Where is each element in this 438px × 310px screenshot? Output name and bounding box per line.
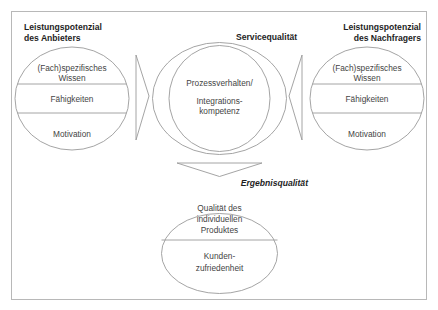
result-product-line1: Qualität des: [161, 203, 278, 214]
customer-heading-line1: Leistungspotenzial: [343, 22, 421, 33]
customer-knowledge-line2: Wissen: [310, 73, 424, 83]
result-satisfaction-line1: Kunden-: [161, 250, 278, 262]
customer-knowledge-line1: (Fach)spezifisches: [310, 63, 424, 73]
provider-motivation: Motivation: [15, 129, 129, 139]
result-satisfaction: Kunden- zufriedenheit: [161, 250, 278, 274]
right-arrow-shape: [136, 55, 149, 140]
service-line2: Integrations-: [169, 96, 270, 106]
customer-heading-line2: des Nachfragers: [343, 33, 421, 44]
down-arrow-shape: [177, 163, 262, 177]
provider-heading: Leistungspotenzial des Anbieters: [24, 22, 102, 43]
provider-skills: Fähigkeiten: [15, 94, 129, 104]
provider-heading-line2: des Anbieters: [24, 33, 102, 44]
result-heading: Ergebnisqualität: [241, 178, 308, 189]
customer-heading: Leistungspotenzial des Nachfragers: [343, 22, 421, 43]
customer-motivation: Motivation: [310, 129, 424, 139]
provider-knowledge-line1: (Fach)spezifisches: [15, 63, 129, 73]
provider-heading-line1: Leistungspotenzial: [24, 22, 102, 33]
service-process-behavior: Prozessverhalten/: [169, 78, 270, 88]
service-line3: kompetenz: [169, 106, 270, 116]
service-heading: Servicequalität: [236, 32, 297, 43]
customer-knowledge: (Fach)spezifisches Wissen: [310, 63, 424, 83]
left-arrow-shape: [289, 55, 302, 140]
result-product-quality: Qualität des individuellen Produktes: [161, 203, 278, 236]
customer-skills: Fähigkeiten: [310, 94, 424, 104]
service-integration-competence: Integrations- kompetenz: [169, 96, 270, 116]
result-product-line3: Produktes: [161, 225, 278, 236]
result-product-line2: individuellen: [161, 214, 278, 225]
result-satisfaction-line2: zufriedenheit: [161, 262, 278, 274]
provider-knowledge-line2: Wissen: [15, 73, 129, 83]
provider-knowledge: (Fach)spezifisches Wissen: [15, 63, 129, 83]
